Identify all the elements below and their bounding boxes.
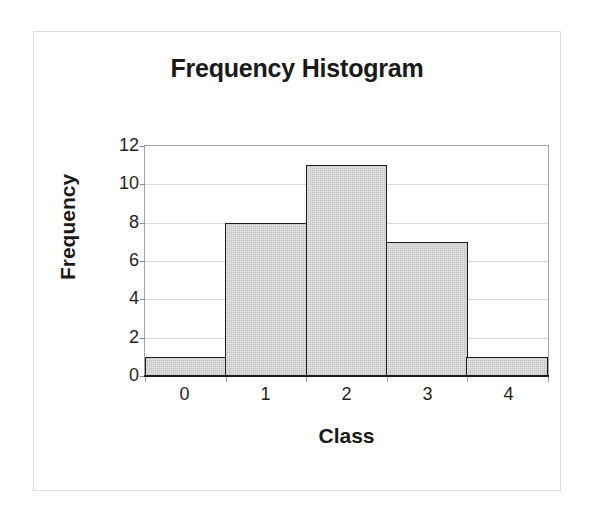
chart-frame: Frequency Histogram Frequency 121086420 … — [33, 31, 561, 491]
x-axis-tick-labels: 01234 — [144, 384, 549, 410]
x-tick-label: 2 — [306, 384, 387, 410]
y-tick-label: 4 — [99, 288, 139, 309]
x-tick-label: 3 — [387, 384, 468, 410]
bar — [386, 242, 468, 376]
y-tick-label: 2 — [99, 326, 139, 347]
plot-area — [144, 145, 549, 377]
y-tick-label: 8 — [99, 211, 139, 232]
bar — [466, 357, 548, 376]
bar — [225, 223, 307, 376]
y-axis-tick-labels: 121086420 — [91, 145, 139, 377]
x-axis-baseline — [144, 375, 549, 377]
bar-series — [145, 146, 548, 376]
y-tick-label: 10 — [99, 173, 139, 194]
x-axis-title: Class — [144, 424, 549, 448]
bar — [145, 357, 227, 376]
x-tick-label: 4 — [468, 384, 549, 410]
y-tick-label: 12 — [99, 135, 139, 156]
x-tick-label: 1 — [225, 384, 306, 410]
y-axis-title: Frequency — [56, 152, 82, 302]
bar — [306, 165, 388, 376]
y-tick-label: 6 — [99, 250, 139, 271]
x-tick-label: 0 — [144, 384, 225, 410]
chart-title: Frequency Histogram — [34, 54, 560, 83]
y-tick-label: 0 — [99, 365, 139, 386]
